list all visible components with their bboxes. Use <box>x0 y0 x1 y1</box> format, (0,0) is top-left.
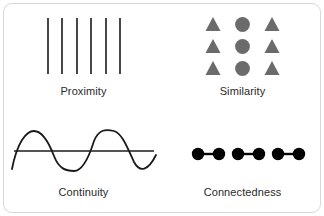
continuity-svg <box>4 109 163 189</box>
proximity-line-group <box>48 18 120 74</box>
connectedness-dot <box>232 148 244 160</box>
similarity-circle <box>235 61 250 76</box>
similarity-shape-grid <box>206 17 280 76</box>
proximity-illustration <box>4 4 163 84</box>
panel-similarity: Similarity <box>163 4 322 109</box>
similarity-triangle <box>265 17 280 31</box>
panel-label-proximity: Proximity <box>4 84 163 98</box>
connectedness-dot <box>213 148 225 160</box>
connectedness-dot <box>272 148 284 160</box>
connectedness-illustration <box>163 109 322 189</box>
panel-continuity: Continuity <box>4 109 163 214</box>
panel-label-continuity: Continuity <box>4 185 163 199</box>
similarity-circle <box>235 39 250 54</box>
panel-label-connectedness: Connectedness <box>163 185 322 199</box>
similarity-triangle <box>206 39 221 53</box>
continuity-illustration <box>4 109 163 189</box>
similarity-illustration <box>163 4 322 84</box>
panel-connectedness: Connectedness <box>163 109 322 214</box>
connectedness-dot <box>293 148 305 160</box>
similarity-triangle <box>206 17 221 31</box>
gestalt-principles-figure-card: Proximity Si <box>3 3 321 213</box>
similarity-triangle <box>265 61 280 75</box>
connectedness-dot <box>192 148 204 160</box>
connectedness-svg <box>163 109 322 189</box>
similarity-triangle <box>265 39 280 53</box>
connectedness-dot <box>253 148 265 160</box>
proximity-svg <box>4 4 163 84</box>
similarity-svg <box>163 4 322 84</box>
panel-proximity: Proximity <box>4 4 163 109</box>
similarity-circle <box>235 17 250 32</box>
similarity-triangle <box>206 61 221 75</box>
panel-label-similarity: Similarity <box>163 84 322 98</box>
